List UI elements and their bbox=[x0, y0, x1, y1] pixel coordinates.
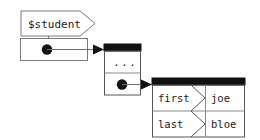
hash-value-label-last: bloe bbox=[211, 118, 236, 130]
hash-container[interactable]: first joe last bloe bbox=[152, 78, 245, 137]
hash-key-pentagon-first bbox=[191, 85, 205, 111]
variable-label: $student bbox=[28, 18, 81, 31]
hash-key-label-first: first bbox=[158, 92, 190, 104]
arrow-head-scalar-to-array bbox=[93, 45, 104, 55]
hash-key-pentagon-last bbox=[191, 111, 205, 137]
hash-value-label-first: joe bbox=[211, 92, 230, 104]
reference-diagram: $student ... bbox=[0, 0, 260, 140]
array-row-ellipsis: ... bbox=[113, 56, 137, 69]
variable-pentagon[interactable]: $student bbox=[21, 11, 95, 36]
array-container-header bbox=[104, 44, 141, 51]
diagram-canvas: $student ... bbox=[0, 0, 260, 140]
arrow-head-array-to-hash bbox=[141, 80, 152, 90]
hash-row-first[interactable]: first joe bbox=[158, 85, 230, 111]
hash-container-header bbox=[152, 78, 245, 85]
hash-row-last[interactable]: last bloe bbox=[158, 111, 236, 137]
array-container[interactable]: ... bbox=[104, 44, 141, 95]
hash-key-label-last: last bbox=[158, 118, 183, 130]
arrow-array-to-hash bbox=[122, 80, 152, 90]
